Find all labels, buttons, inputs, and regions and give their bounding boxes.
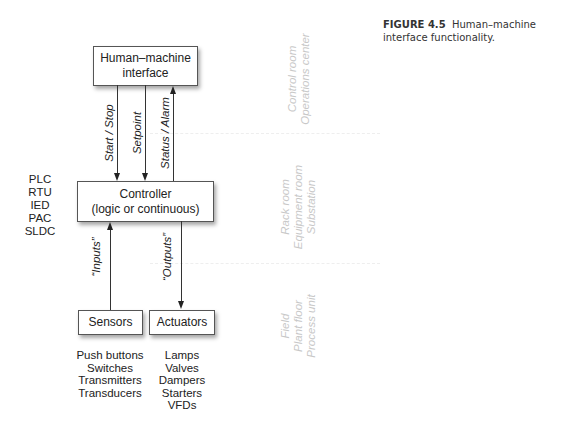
zone-line: Control room <box>286 24 299 134</box>
status-alarm-arrow-line <box>173 93 174 181</box>
controller-types-list: PLC RTU IED PAC SLDC <box>22 173 58 238</box>
arrow-head-up-icon <box>107 222 113 230</box>
setpoint-label: Setpoint <box>131 93 145 173</box>
inputs-arrow-line <box>110 229 111 310</box>
actuator-example: Lamps <box>150 349 214 362</box>
outputs-label: “Outputs” <box>161 227 175 287</box>
controller-label-line1: Controller <box>119 187 171 202</box>
zone-label-rack-room: Rack room Equipment room Substation <box>279 157 321 257</box>
actuator-example: Valves <box>150 362 214 375</box>
start-stop-arrow-line <box>117 85 118 175</box>
sensors-box: Sensors <box>78 310 143 335</box>
arrow-head-down-icon <box>178 301 184 309</box>
zone-label-field: Field Plant floor Process unit <box>279 281 321 371</box>
actuator-example: Starters <box>150 387 214 400</box>
arrow-head-down-icon <box>142 173 148 181</box>
sensor-examples-list: Push buttons Switches Transmitters Trans… <box>72 349 148 399</box>
controller-type: IED <box>22 199 58 212</box>
outputs-arrow-line <box>181 221 182 302</box>
controller-type: SLDC <box>22 225 58 238</box>
controller-type: RTU <box>22 186 58 199</box>
zone-label-control-room: Control room Operations center <box>286 24 314 134</box>
status-alarm-label: Status / Alarm <box>159 93 173 173</box>
sensor-example: Push buttons <box>72 349 148 362</box>
actuator-examples-list: Lamps Valves Dampers Starters VFDs <box>150 349 214 412</box>
figure-label: FIGURE 4.5 <box>383 19 446 30</box>
zone-line: Process unit <box>305 281 318 371</box>
sensor-example: Transducers <box>72 387 148 400</box>
controller-type: PLC <box>22 173 58 186</box>
figure-caption: FIGURE 4.5 Human–machine interface funct… <box>383 18 573 44</box>
zone-line: Plant floor <box>292 281 305 371</box>
actuator-example: VFDs <box>150 399 214 412</box>
zone-line: Substation <box>305 157 318 257</box>
zone-line: Field <box>279 281 292 371</box>
actuators-box: Actuators <box>149 310 215 335</box>
controller-label-line2: (logic or continuous) <box>91 202 199 217</box>
zone-line: Equipment room <box>292 157 305 257</box>
controller-box: Controller (logic or continuous) <box>77 181 214 222</box>
zone-divider-lower <box>150 263 380 264</box>
zone-line: Rack room <box>279 157 292 257</box>
actuator-example: Dampers <box>150 374 214 387</box>
sensor-example: Switches <box>72 362 148 375</box>
sensor-example: Transmitters <box>72 374 148 387</box>
sensors-label: Sensors <box>88 315 132 330</box>
hmi-label-line1: Human–machine <box>100 51 191 66</box>
setpoint-arrow-line <box>145 85 146 175</box>
hmi-label-line2: interface <box>122 66 168 81</box>
hmi-box: Human–machine interface <box>93 46 198 86</box>
actuators-label: Actuators <box>157 315 208 330</box>
inputs-label: “Inputs” <box>90 227 104 287</box>
zone-line: Operations center <box>299 24 312 134</box>
zone-divider-upper <box>150 133 380 134</box>
arrow-head-down-icon <box>114 173 120 181</box>
controller-type: PAC <box>22 212 58 225</box>
start-stop-label: Start / Stop <box>103 93 117 173</box>
